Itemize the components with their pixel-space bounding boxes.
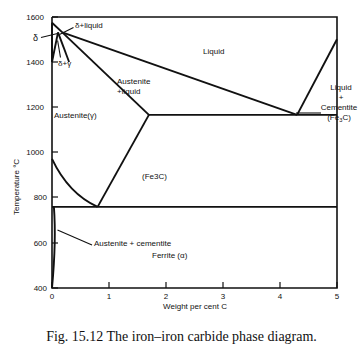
delta-label-leader	[41, 34, 58, 38]
ytick-1400: 1400	[18, 58, 44, 67]
ytick-1200: 1200	[18, 103, 44, 112]
xtick-1: 1	[99, 292, 119, 301]
liquidus-delta-line	[52, 23, 62, 33]
xtick-3: 3	[213, 292, 233, 301]
region-label-ferrite-cementite: Ferrite (α)	[152, 252, 187, 261]
region-label-delta-gamma: δ+γ	[58, 60, 71, 69]
region-label-delta-liquid: δ+liquid	[75, 22, 103, 31]
region-label-ferrite-alpha: Austenite + cementite	[94, 240, 171, 249]
region-label-delta: δ	[33, 33, 38, 43]
x-axis-label: Weight per cent C	[140, 303, 250, 312]
acm-solvus-line	[98, 115, 149, 207]
figure-caption: Fig. 15.12 The iron–iron carbide phase d…	[0, 329, 363, 345]
delta-gamma-leader	[58, 41, 61, 58]
ferrite-leader	[58, 230, 93, 245]
xtick-2: 2	[156, 292, 176, 301]
region-label-austenite-liquid-1: Austenite	[117, 78, 150, 87]
region-label-austenite-gamma: Austenite(γ)	[54, 112, 97, 121]
region-label-liquid-cementite-2: +	[318, 94, 363, 103]
x-axis-ticks	[52, 282, 337, 288]
solidus-austenite-line	[62, 32, 149, 115]
ytick-600: 600	[21, 239, 47, 248]
ytick-1600: 1600	[18, 13, 44, 22]
region-label-liquid: Liquid	[203, 48, 224, 57]
ytick-800: 800	[21, 193, 47, 202]
region-label-austenite-liquid-2: +liquid	[117, 88, 140, 97]
region-label-liquid-cementite-4: (Fe3C)	[316, 114, 362, 123]
xtick-4: 4	[270, 292, 290, 301]
xtick-5: 5	[327, 292, 347, 301]
xtick-0: 0	[42, 292, 62, 301]
y-axis-label: Temperature °C	[12, 159, 21, 215]
ytick-1000: 1000	[18, 148, 44, 157]
leader-lines	[41, 28, 321, 246]
region-label-liquid-cementite-3: Cementite	[314, 104, 363, 113]
liquidus-austenite-line	[62, 32, 297, 115]
a3-curve	[52, 159, 98, 207]
region-label-liquid-cementite-1: Liquid	[318, 84, 363, 93]
region-label-austenite-cementite: (Fe3C)	[142, 173, 167, 182]
